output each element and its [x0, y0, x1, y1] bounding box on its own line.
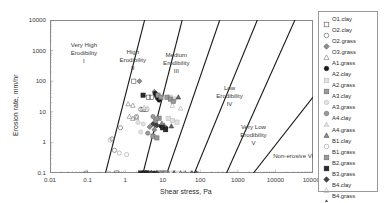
data-point — [176, 95, 181, 99]
zone-5-label: Very LowErodibilityV — [227, 123, 279, 147]
data-point — [170, 103, 175, 107]
series-B4.clay — [170, 103, 193, 173]
data-point — [132, 79, 136, 83]
legend-item-label: A2.grass — [332, 83, 355, 89]
legend-item-b4-grass[interactable]: B4.grass — [322, 192, 377, 203]
data-point — [117, 151, 121, 155]
data-point — [112, 148, 116, 152]
y-tick-label: 1 — [12, 139, 46, 145]
legend-marker-icon — [322, 181, 331, 190]
data-point — [151, 134, 155, 138]
legend-item-a4-grass[interactable]: A4.grass — [322, 125, 377, 136]
legend-item-o2-clay[interactable]: O2.clay — [322, 25, 377, 36]
y-tick-label: 10 — [12, 109, 46, 115]
legend-item-label: A3.grass — [332, 105, 355, 111]
legend-item-label: A3.clay — [332, 94, 351, 100]
legend-marker-icon — [322, 59, 331, 68]
data-point — [126, 102, 131, 106]
x-tick-label: 1000 — [218, 177, 258, 183]
legend-item-b1-clay[interactable]: B1.clay — [322, 136, 377, 147]
series-A4.clay — [142, 105, 181, 173]
legend-marker-icon — [322, 37, 331, 46]
legend-marker-icon — [322, 137, 331, 146]
data-point — [151, 114, 155, 118]
zone-4-label: LowErodibilityIV — [204, 84, 256, 108]
data-point — [141, 122, 145, 126]
erodibility-chart-figure: Erosion rate, mm/hr 0.1110100100010000 V… — [0, 0, 389, 202]
legend-item-label: B4.grass — [332, 194, 355, 200]
legend-item-o3-grass[interactable]: O3.grass — [322, 47, 377, 58]
data-point — [137, 79, 142, 84]
legend-item-a4-clay[interactable]: A4.clay — [322, 114, 377, 125]
legend-item-a3-clay[interactable]: A3.clay — [322, 92, 377, 103]
legend-item-label: A4.clay — [332, 116, 351, 122]
data-point — [164, 171, 168, 173]
series-B2.grass — [139, 93, 168, 173]
legend-item-a2-grass[interactable]: A2.grass — [322, 81, 377, 92]
series-B1.grass — [164, 95, 176, 173]
x-tick-label: 1 — [105, 177, 145, 183]
series-B4.grass — [169, 95, 199, 173]
data-point — [146, 95, 150, 99]
data-point — [136, 120, 140, 124]
data-point — [139, 130, 143, 134]
x-tick-label: 100 — [180, 177, 220, 183]
x-tick-label: 10000 — [255, 177, 295, 183]
legend-item-b1-grass[interactable]: B1.grass — [322, 147, 377, 158]
data-point — [159, 95, 163, 99]
legend-item-label: B4.clay — [332, 183, 351, 189]
data-point — [125, 152, 129, 156]
data-point — [145, 171, 149, 173]
data-point — [155, 116, 159, 120]
legend-item-label: O2.grass — [332, 39, 356, 45]
legend-marker-icon — [322, 104, 331, 113]
data-point — [115, 171, 119, 173]
data-point — [127, 114, 132, 118]
data-point — [170, 118, 174, 122]
legend-item-a1-grass[interactable]: A1.grass — [322, 58, 377, 69]
data-point — [175, 120, 179, 124]
legend-item-a3-grass[interactable]: A3.grass — [322, 103, 377, 114]
data-point — [118, 126, 122, 130]
x-tick-label: 10 — [143, 177, 183, 183]
legend-item-a2-clay[interactable]: A2.clay — [322, 69, 377, 80]
legend-item-o2-grass[interactable]: O2.grass — [322, 36, 377, 47]
legend-marker-icon — [322, 170, 331, 179]
legend-marker-icon — [322, 82, 331, 91]
y-tick-label: 1000 — [12, 48, 46, 54]
data-point — [169, 124, 174, 128]
y-tick-label: 10000 — [12, 17, 46, 23]
legend-item-label: A1.grass — [332, 61, 355, 67]
legend-item-label: O3.grass — [332, 50, 356, 56]
legend-marker-icon — [322, 93, 331, 102]
zone-6-label: Non-erosive VI — [267, 152, 313, 160]
legend-item-b4-clay[interactable]: B4.clay — [322, 180, 377, 191]
legend-marker-icon — [322, 148, 331, 157]
x-tick-label: 0.01 — [30, 177, 70, 183]
legend-item-label: B2.grass — [332, 161, 355, 167]
legend-marker-icon — [322, 26, 331, 35]
legend-item-label: B1.clay — [332, 139, 351, 145]
plot-area: Very HighErodibilityIHighErodibilityIIMe… — [50, 20, 313, 173]
legend-item-b3-grass[interactable]: B3.grass — [322, 169, 377, 180]
legend-item-label: A2.clay — [332, 72, 351, 78]
data-point — [178, 106, 183, 110]
data-point — [171, 99, 175, 103]
legend-item-label: B3.grass — [332, 172, 355, 178]
legend-item-o1-clay[interactable]: O1.clay — [322, 14, 377, 25]
series-O2.clay — [84, 107, 143, 173]
legend-item-label: B1.grass — [332, 150, 355, 156]
legend-item-b2-grass[interactable]: B2.grass — [322, 158, 377, 169]
data-point — [131, 103, 136, 107]
y-tick-label: 0.1 — [12, 170, 46, 176]
legend-glyph — [324, 199, 329, 202]
legend-marker-icon — [322, 15, 331, 24]
data-point — [155, 136, 159, 140]
data-point — [152, 127, 157, 132]
legend-marker-icon — [322, 193, 331, 202]
data-point — [149, 95, 153, 99]
series-A2.clay — [166, 95, 179, 173]
legend-box[interactable]: O1.clayO2.clayO2.grassO3.grassA1.grassA2… — [318, 11, 378, 192]
series-A1.grass — [149, 91, 167, 173]
data-point — [84, 171, 88, 173]
